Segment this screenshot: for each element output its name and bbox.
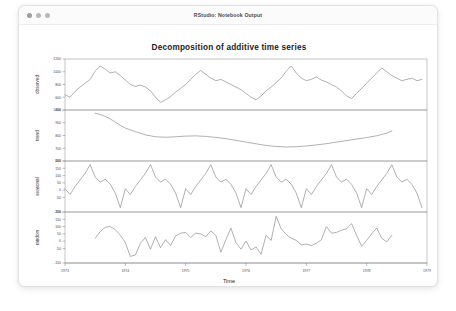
y-tick-label: -50 [56,247,61,251]
x-tick-label: 1978 [363,269,371,273]
y-tick-label: 100 [55,225,61,229]
x-tick-label: 1976 [242,269,250,273]
minimize-button[interactable] [36,13,41,18]
y-tick-label: 1200 [53,57,61,61]
screen-root: RStudio: Notebook Output Decomposition o… [0,0,456,311]
y-tick-label: 200 [55,159,61,163]
panel-frame [65,212,427,263]
x-tick-label: 1975 [182,269,190,273]
close-button[interactable] [27,13,32,18]
panel-frame [65,110,427,161]
plot-output-pane: Decomposition of additive time series 40… [19,25,438,287]
panel-trend: 6007008009001000trend [35,108,427,163]
series-line-random [95,216,392,256]
panel-observed: 40060080010001200observed [35,57,427,112]
window-controls[interactable] [27,6,50,24]
rstudio-notebook-window: RStudio: Notebook Output Decomposition o… [18,5,438,287]
series-line-trend [95,113,392,147]
y-tick-label: 800 [55,83,61,87]
panel-seasonal: -150-50050100150200seasonal [35,159,427,214]
y-tick-label: 1000 [53,70,61,74]
panel-random: -150-50050100150200random [35,210,427,265]
y-tick-label: 700 [55,147,61,151]
y-tick-label: 50 [57,181,61,185]
window-title: RStudio: Notebook Output [19,6,437,25]
decomposition-chart: Decomposition of additive time series 40… [19,25,438,287]
x-axis: 1973197419751976197719781979 [61,263,431,273]
y-tick-label: -150 [54,261,61,265]
y-tick-label: 150 [55,218,61,222]
window-titlebar[interactable]: RStudio: Notebook Output [19,6,437,25]
chart-title: Decomposition of additive time series [152,43,307,52]
y-tick-label: 100 [55,174,61,178]
y-tick-label: 0 [59,188,61,192]
x-tick-label: 1974 [121,269,129,273]
y-tick-label: 900 [55,121,61,125]
y-tick-label: 800 [55,134,61,138]
panel-label-seasonal: seasonal [35,177,40,195]
panel-label-trend: trend [35,130,40,141]
panel-label-random: random [35,230,40,246]
zoom-button[interactable] [45,13,50,18]
x-axis-label: Time [223,278,235,284]
chart-panels: 40060080010001200observed600700800900100… [35,57,427,265]
panel-frame [65,59,427,110]
x-tick-label: 1977 [302,269,310,273]
y-tick-label: 600 [55,96,61,100]
panel-label-observed: observed [35,75,40,94]
y-tick-label: 0 [59,239,61,243]
y-tick-label: 50 [57,232,61,236]
series-line-seasonal [65,165,422,208]
x-tick-label: 1973 [61,269,69,273]
y-tick-label: -50 [56,196,61,200]
y-tick-label: 150 [55,167,61,171]
series-line-observed [65,66,422,102]
y-tick-label: 200 [55,210,61,214]
x-tick-label: 1979 [423,269,431,273]
y-tick-label: 1000 [53,108,61,112]
